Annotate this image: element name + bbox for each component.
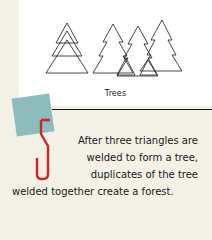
text-line: duplicates of the tree xyxy=(8,166,198,183)
divider-rule xyxy=(52,109,212,110)
step-description: After three triangles are welded to form… xyxy=(8,132,198,200)
stacked-triangles xyxy=(46,23,88,73)
text-line: welded together create a forest. xyxy=(8,183,198,200)
tree-1 xyxy=(93,24,133,73)
text-line: After three triangles are xyxy=(8,132,198,149)
text-line: welded to form a tree, xyxy=(8,149,198,166)
forest xyxy=(93,20,182,76)
triangle-middle xyxy=(52,31,82,56)
tree-2 xyxy=(117,26,158,76)
triangle-bottom xyxy=(46,40,88,73)
